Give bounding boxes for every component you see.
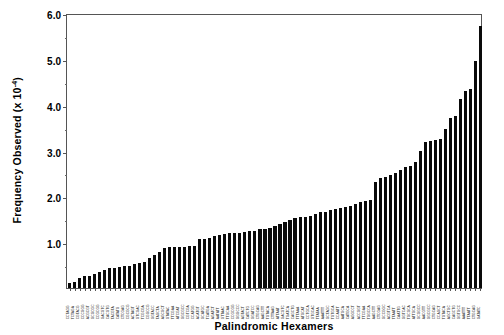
bar [384,177,387,288]
x-axis-tick-label: CCATGG [192,305,195,319]
bar [128,266,131,288]
x-axis-tick-label: GACGTC [102,305,105,319]
x-axis-tick [140,288,141,291]
bar [409,166,412,288]
bar [349,206,352,289]
y-axis-minor-tick [65,175,68,176]
bar [83,276,86,288]
x-axis-tick [320,288,321,291]
bar [113,268,116,288]
bar [208,238,211,288]
y-axis-tick-label: 2.0 [47,193,61,204]
x-axis-tick [295,288,296,291]
x-axis-tick [290,288,291,291]
x-axis-tick [435,288,436,291]
bar [248,231,251,288]
x-axis-tick-label: AAATTT [462,307,465,319]
plot-area: 6.05.04.03.02.01.0 [66,14,482,289]
x-axis-tick [100,288,101,291]
y-axis-minor-tick [65,84,68,85]
x-axis-tick [75,288,76,291]
bar [158,252,161,288]
x-axis-tick [145,288,146,291]
x-axis-tick [315,288,316,291]
x-axis-tick-label: CGCGCG [127,304,130,319]
bar [123,266,126,288]
x-axis-tick [205,288,206,291]
x-axis-tick [375,288,376,291]
bar [419,151,422,289]
x-axis-tick-label: CTCGAG [122,305,125,319]
x-axis-tick-label: CGGCCG [147,304,150,319]
x-axis-tick-label: TGGCCA [367,305,370,319]
x-axis-tick [365,288,366,291]
x-axis-tick [105,288,106,291]
x-axis-tick [115,288,116,291]
bar [394,173,397,288]
x-axis-tick [325,288,326,291]
bar [344,207,347,288]
x-axis-tick [355,288,356,291]
y-axis-minor-tick [65,38,68,39]
bar [263,229,266,288]
x-axis-tick [285,288,286,291]
x-axis-tick [160,288,161,291]
x-axis-tick [200,288,201,291]
x-axis-tick [480,288,481,291]
x-axis-tick-label: ATCGAT [177,306,180,319]
bar [213,236,216,288]
x-axis-tick [230,288,231,291]
x-axis-tick [275,288,276,291]
x-axis-tick [95,288,96,291]
x-axis-tick [310,288,311,291]
x-axis-tick-label: GCATGC [202,305,205,319]
bar [183,247,186,288]
x-axis-tick-label: GTATAC [167,306,170,319]
x-axis-tick-label: AACGTT [422,306,425,319]
x-axis-tick [415,288,416,291]
bar [369,200,372,288]
y-axis-tick [63,198,67,199]
bar [324,212,327,288]
x-axis-tick [440,288,441,291]
bar [93,274,96,288]
x-axis-tick-label: GGTACC [152,305,155,319]
y-axis-title-text: Frequency Observed (x 10 [11,87,23,223]
x-axis-tick [425,288,426,291]
bar [223,234,226,288]
bar [288,220,291,288]
x-axis-tick-label: ACCGGT [357,305,360,319]
bar [374,182,377,288]
x-axis-tick [70,288,71,291]
chart-figure: Frequency Observed (x 10-4) 6.05.04.03.0… [0,0,504,335]
x-axis-tick-label: CCTAGG [67,305,70,319]
bar [218,235,221,288]
x-axis-tick-label: GGTGCC [457,305,460,319]
x-axis-tick [330,288,331,291]
bar [273,226,276,288]
x-axis-tick [215,288,216,291]
x-axis-tick-label: ACGCGT [87,305,90,319]
bar [233,233,236,288]
x-axis-tick-label: CCGCGG [97,304,100,319]
x-axis-tick [450,288,451,291]
x-axis-tick [430,288,431,291]
x-axis-tick-label: AAGCTT [372,306,375,319]
bar [203,239,206,289]
bar [329,210,332,288]
bar [399,170,402,288]
x-axis-tick-label: GGCGCC [427,304,430,319]
x-axis-tick [120,288,121,291]
x-axis-tick-label: CTCGAG [377,305,380,319]
y-axis-minor-tick [65,221,68,222]
x-axis-tick-label: TTAATT [392,307,395,319]
x-axis-tick-label: TAGCTA [157,306,160,319]
x-axis-tick [405,288,406,291]
x-axis-tick-label: TACGTA [112,306,115,319]
y-axis-tick-label: 1.0 [47,239,61,250]
y-axis-tick [63,153,67,154]
bar [283,222,286,288]
x-axis-tick [350,288,351,291]
x-axis-tick [270,288,271,291]
bar [429,141,432,288]
